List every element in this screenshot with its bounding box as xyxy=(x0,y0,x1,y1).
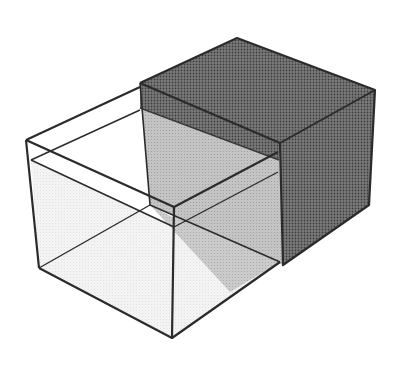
clear-box-top-back-edge xyxy=(26,87,140,140)
diagram-canvas: Two intersecting rectangular boxes: a tr… xyxy=(0,0,400,376)
two-boxes-diagram xyxy=(0,0,400,376)
water-line-back xyxy=(31,110,140,160)
